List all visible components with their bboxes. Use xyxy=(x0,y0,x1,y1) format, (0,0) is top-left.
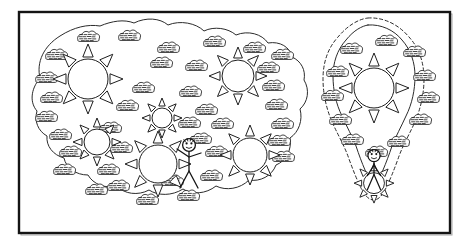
sun-disc xyxy=(139,145,177,183)
sun-icon xyxy=(220,125,280,185)
figure-canvas xyxy=(0,0,467,244)
figure-root xyxy=(0,0,467,244)
sun-icon xyxy=(339,53,409,123)
sun-disc xyxy=(152,108,172,128)
person-eye-left xyxy=(186,142,188,144)
person-eye-right xyxy=(375,153,377,155)
sun-disc xyxy=(354,68,394,108)
sun-disc xyxy=(222,60,254,92)
sun-icon xyxy=(53,44,123,114)
sun-disc xyxy=(84,129,110,155)
sun-icon xyxy=(209,47,267,105)
sun-icon xyxy=(73,118,121,166)
sun-icon xyxy=(142,98,182,138)
sun-disc xyxy=(68,59,108,99)
sun-disc xyxy=(233,138,267,172)
person-eye-right xyxy=(190,142,192,144)
person-eye-left xyxy=(371,153,373,155)
